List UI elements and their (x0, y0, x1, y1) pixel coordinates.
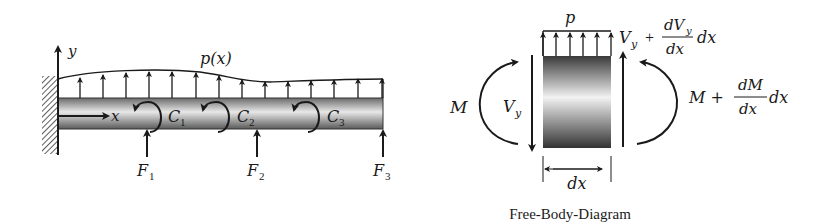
svg-text:dM: dM (738, 76, 764, 94)
svg-text:C: C (168, 107, 180, 126)
svg-text:2: 2 (259, 170, 265, 182)
svg-text:C: C (327, 107, 339, 126)
svg-text:y: y (685, 25, 692, 36)
svg-text:3: 3 (385, 170, 391, 182)
svg-text:+: + (645, 29, 654, 46)
distributed-load-arrows (80, 72, 382, 98)
svg-text:dx: dx (769, 88, 788, 107)
right-moment-arrow (637, 62, 677, 144)
svg-text:dx: dx (739, 100, 758, 118)
svg-text:y: y (630, 38, 638, 51)
svg-text:M +: M + (688, 88, 724, 107)
element-load-label: p (565, 8, 575, 27)
right-shear-label: V y + dV y dx dx (619, 16, 716, 58)
svg-text:1: 1 (180, 116, 186, 128)
force-f2: F 2 (246, 131, 265, 182)
width-label: dx (567, 174, 586, 193)
svg-text:1: 1 (149, 170, 155, 182)
y-axis-label: y (67, 42, 77, 60)
diagram-canvas: y x p(x) C 1 (0, 0, 831, 224)
force-f1: F 1 (136, 131, 155, 182)
svg-text:3: 3 (339, 116, 345, 128)
distributed-load-label: p(x) (200, 49, 232, 68)
x-axis-label: x (111, 107, 120, 125)
svg-text:dx: dx (697, 28, 716, 47)
svg-text:dx: dx (666, 40, 685, 58)
svg-text:dV: dV (664, 16, 687, 34)
svg-text:C: C (237, 107, 249, 126)
fixed-wall (42, 76, 57, 154)
beam-element (543, 56, 611, 148)
svg-text:2: 2 (249, 116, 255, 128)
free-body-diagram: p V y M V y + dV y dx dx M + dM dx dx (449, 8, 788, 222)
svg-text:F: F (372, 161, 385, 180)
svg-text:y: y (514, 107, 522, 120)
right-moment-label: M + dM dx dx (688, 76, 788, 118)
cantilever-beam: y x p(x) C 1 (42, 42, 391, 182)
svg-text:F: F (136, 161, 149, 180)
force-f3: F 3 (372, 131, 391, 182)
left-moment-label: M (449, 97, 468, 117)
svg-text:F: F (246, 161, 259, 180)
element-load-arrows (543, 33, 611, 56)
diagram-caption: Free-Body-Diagram (509, 206, 631, 222)
